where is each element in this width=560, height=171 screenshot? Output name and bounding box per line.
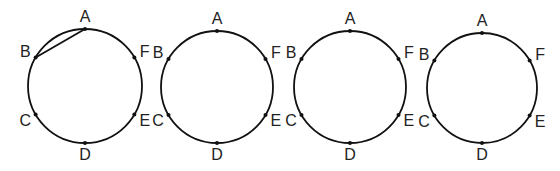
label-e: E [535, 113, 546, 130]
circle-outline [294, 31, 406, 143]
label-b: B [20, 43, 31, 60]
label-e: E [404, 112, 415, 129]
point-b [34, 56, 38, 60]
label-f: F [271, 44, 281, 61]
point-f [263, 57, 267, 61]
circle-2: AFEDCB [152, 10, 281, 163]
label-f: F [404, 44, 414, 61]
label-e: E [271, 112, 282, 129]
point-a [348, 29, 352, 33]
point-a [215, 29, 219, 33]
label-f: F [140, 43, 150, 60]
label-a: A [477, 12, 488, 29]
point-a [480, 31, 484, 35]
label-a: A [345, 10, 356, 27]
circle-4: AFEDCB [418, 12, 545, 163]
label-c: C [418, 113, 430, 130]
label-e: E [139, 112, 150, 129]
label-c: C [152, 112, 164, 129]
point-e [528, 114, 532, 118]
point-b [300, 57, 304, 61]
label-f: F [535, 46, 545, 63]
point-d [348, 141, 352, 145]
point-c [432, 114, 436, 118]
point-d [83, 141, 87, 145]
circle-outline [427, 33, 537, 143]
label-d: D [211, 146, 223, 163]
circle-diagrams: AFEDCBAFEDCBAFEDCBAFEDCB [0, 0, 560, 171]
point-f [132, 56, 136, 60]
label-d: D [344, 146, 356, 163]
label-a: A [212, 10, 223, 27]
point-e [396, 113, 400, 117]
circle-outline [28, 29, 142, 143]
point-b [167, 57, 171, 61]
point-b [432, 59, 436, 63]
label-d: D [476, 146, 488, 163]
circle-1: AFEDCB [19, 8, 150, 163]
point-f [528, 59, 532, 63]
point-c [300, 113, 304, 117]
point-e [263, 113, 267, 117]
point-c [34, 113, 38, 117]
label-c: C [19, 112, 31, 129]
point-d [480, 141, 484, 145]
label-d: D [79, 146, 91, 163]
point-d [215, 141, 219, 145]
label-b: B [286, 44, 297, 61]
point-e [132, 113, 136, 117]
label-a: A [80, 8, 91, 25]
point-c [167, 113, 171, 117]
label-b: B [419, 46, 430, 63]
point-a [83, 27, 87, 31]
circle-outline [161, 31, 273, 143]
label-b: B [153, 44, 164, 61]
circle-3: AFEDCB [285, 10, 414, 163]
chord-ab [36, 29, 85, 58]
point-f [396, 57, 400, 61]
label-c: C [285, 112, 297, 129]
